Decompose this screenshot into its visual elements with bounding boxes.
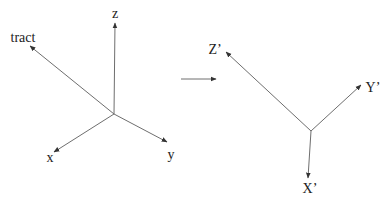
- axis-x-prime-arrow: [308, 131, 311, 178]
- axis-label-y: y: [168, 148, 175, 162]
- axis-label-x: x: [47, 151, 54, 165]
- rotated-coordinate-frame: [226, 52, 361, 178]
- original-coordinate-frame: [30, 23, 167, 152]
- axis-y-arrow: [114, 114, 167, 142]
- axis-tract-arrow: [30, 46, 114, 114]
- axis-z-prime-arrow: [226, 52, 311, 131]
- axis-label-y-prime: Y’: [366, 81, 381, 95]
- axis-label-x-prime: X’: [303, 182, 318, 196]
- axes-drawing: [0, 0, 388, 202]
- axis-label-tract: tract: [11, 31, 36, 45]
- axis-x-arrow: [54, 114, 114, 152]
- diagram-canvas: z tract x y Z’ Y’ X’: [0, 0, 388, 202]
- axis-z-arrow: [114, 23, 115, 114]
- axis-y-prime-arrow: [311, 85, 361, 131]
- axis-label-z: z: [112, 7, 118, 21]
- axis-label-z-prime: Z’: [208, 43, 221, 57]
